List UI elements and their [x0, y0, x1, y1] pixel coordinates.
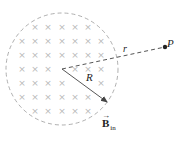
- cross-mark-icon: ×: [71, 36, 79, 46]
- cross-mark-icon: ×: [84, 22, 92, 32]
- cross-mark-icon: ×: [58, 92, 66, 102]
- label-B-subscript: in: [110, 124, 115, 132]
- label-r-distance: r: [123, 44, 127, 54]
- cross-mark-icon: ×: [44, 78, 52, 88]
- cross-mark-icon: ×: [44, 92, 52, 102]
- cross-mark-icon: ×: [44, 36, 52, 46]
- cross-mark-icon: ×: [71, 22, 79, 32]
- cross-mark-icon: ×: [31, 64, 39, 74]
- cross-mark-icon: ×: [71, 92, 79, 102]
- cross-mark-icon: ×: [44, 106, 52, 116]
- cross-mark-icon: ×: [97, 78, 105, 88]
- cross-mark-icon: ×: [31, 36, 39, 46]
- field-into-page-marks: ××××××××××××××××××××××××××××××××××××××××…: [18, 22, 105, 116]
- magnetic-field-diagram: ××××××××××××××××××××××××××××××××××××××××…: [0, 0, 182, 144]
- cross-mark-icon: ×: [31, 78, 39, 88]
- cross-mark-icon: ×: [18, 92, 26, 102]
- cross-mark-icon: ×: [97, 36, 105, 46]
- cross-mark-icon: ×: [58, 36, 66, 46]
- cross-mark-icon: ×: [71, 50, 79, 60]
- label-B-in-field: → Bin: [102, 118, 116, 129]
- cross-mark-icon: ×: [31, 22, 39, 32]
- cross-mark-icon: ×: [58, 78, 66, 88]
- cross-mark-icon: ×: [97, 50, 105, 60]
- cross-mark-icon: ×: [31, 92, 39, 102]
- vector-arrow-icon: →: [102, 112, 110, 120]
- cross-mark-icon: ×: [18, 36, 26, 46]
- cross-mark-icon: ×: [31, 106, 39, 116]
- label-R-radius: R: [86, 72, 93, 83]
- cross-mark-icon: ×: [18, 64, 26, 74]
- cross-mark-icon: ×: [44, 50, 52, 60]
- cross-mark-icon: ×: [84, 36, 92, 46]
- label-P: P: [167, 38, 174, 49]
- cross-mark-icon: ×: [97, 64, 105, 74]
- cross-mark-icon: ×: [44, 22, 52, 32]
- cross-mark-icon: ×: [44, 64, 52, 74]
- cross-mark-icon: ×: [84, 92, 92, 102]
- cross-mark-icon: ×: [71, 106, 79, 116]
- cross-mark-icon: ×: [18, 50, 26, 60]
- cross-mark-icon: ×: [58, 106, 66, 116]
- cross-mark-icon: ×: [18, 78, 26, 88]
- cross-mark-icon: ×: [84, 106, 92, 116]
- cross-mark-icon: ×: [58, 50, 66, 60]
- cross-mark-icon: ×: [58, 22, 66, 32]
- cross-mark-icon: ×: [84, 50, 92, 60]
- cross-mark-icon: ×: [31, 50, 39, 60]
